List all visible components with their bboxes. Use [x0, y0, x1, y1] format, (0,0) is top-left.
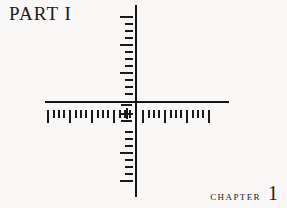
- vertical-ruler-tick-minor: [125, 131, 133, 133]
- vertical-ruler-scale: [0, 0, 287, 208]
- reticle-cross-vertical: [126, 108, 128, 119]
- vertical-ruler-tick-minor: [125, 23, 133, 25]
- vertical-ruler-tick-minor: [125, 145, 133, 147]
- crosshair-ruler-figure: [0, 0, 287, 208]
- vertical-ruler-tick-major: [120, 16, 133, 18]
- vertical-ruler-tick-minor: [125, 173, 133, 175]
- book-part-title-page: PART I Chapter 1: [0, 0, 287, 208]
- chapter-heading: Chapter 1: [210, 182, 278, 205]
- vertical-ruler-tick-minor: [125, 37, 133, 39]
- vertical-ruler-tick-minor: [125, 79, 133, 81]
- vertical-ruler-tick-major: [120, 180, 133, 182]
- vertical-ruler-tick-minor: [125, 86, 133, 88]
- vertical-ruler-tick-minor: [125, 93, 133, 95]
- chapter-label: Chapter: [210, 189, 261, 204]
- vertical-ruler-tick-major: [120, 152, 133, 154]
- center-plus-mark: [119, 104, 134, 122]
- vertical-ruler-tick-minor: [125, 138, 133, 140]
- vertical-ruler-tick-minor: [125, 58, 133, 60]
- vertical-ruler-tick-minor: [125, 166, 133, 168]
- vertical-ruler-tick-minor: [125, 51, 133, 53]
- vertical-ruler-tick-major: [120, 44, 133, 46]
- reticle-bar-bottom: [121, 120, 132, 122]
- vertical-ruler-tick-minor: [125, 30, 133, 32]
- vertical-ruler-tick-major: [120, 72, 133, 74]
- reticle-bar-top: [121, 104, 132, 106]
- vertical-ruler-tick-minor: [125, 65, 133, 67]
- vertical-ruler-tick-minor: [125, 159, 133, 161]
- chapter-number: 1: [268, 182, 278, 205]
